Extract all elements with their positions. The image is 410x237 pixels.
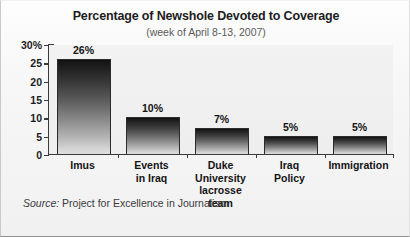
bar-value-label: 5% bbox=[264, 121, 318, 133]
chart-subtitle: (week of April 8-13, 2007) bbox=[1, 25, 410, 39]
x-axis-category-line: Imus bbox=[48, 159, 117, 172]
x-axis-category-line: in Iraq bbox=[117, 172, 186, 185]
y-axis-label: 0 bbox=[36, 149, 42, 161]
bar-group: 26% bbox=[57, 45, 111, 154]
y-axis-tick bbox=[44, 137, 49, 138]
x-axis-category-line: Iraq bbox=[255, 159, 324, 172]
source-note: Source: Project for Excellence in Journa… bbox=[23, 197, 228, 209]
x-axis-category-line: Policy bbox=[255, 172, 324, 185]
y-axis-label: 20 bbox=[30, 76, 42, 88]
chart-figure: Percentage of Newshole Devoted to Covera… bbox=[0, 0, 410, 237]
x-axis-tick bbox=[118, 154, 119, 158]
source-label: Source: bbox=[23, 197, 59, 209]
bar bbox=[333, 136, 387, 154]
bar bbox=[57, 59, 111, 154]
y-axis-label: 30% bbox=[21, 39, 42, 51]
y-axis-tick bbox=[44, 155, 49, 156]
x-axis-tick bbox=[325, 154, 326, 158]
y-axis-label: 5 bbox=[36, 131, 42, 143]
bar-value-label: 7% bbox=[195, 113, 249, 125]
bar-value-label: 26% bbox=[57, 44, 111, 56]
plot-area: 30%2520151050 26%10%7%5%5% bbox=[48, 45, 393, 155]
x-axis-tick bbox=[187, 154, 188, 158]
x-axis-category-label: IraqPolicy bbox=[255, 159, 324, 184]
y-axis-label: 25 bbox=[30, 57, 42, 69]
x-axis-category-line: Events bbox=[117, 159, 186, 172]
y-axis-label: 15 bbox=[30, 94, 42, 106]
x-axis-category-label: Immigration bbox=[324, 159, 393, 172]
bar-value-label: 10% bbox=[126, 102, 180, 114]
bar-group: 5% bbox=[333, 45, 387, 154]
bar-group: 7% bbox=[195, 45, 249, 154]
source-text: Project for Excellence in Journalism bbox=[62, 197, 228, 209]
y-axis-tick bbox=[44, 100, 49, 101]
bar-group: 5% bbox=[264, 45, 318, 154]
bar bbox=[195, 128, 249, 154]
x-axis-category-line: Duke University bbox=[186, 159, 255, 184]
y-axis-tick bbox=[44, 63, 49, 64]
bar bbox=[126, 117, 180, 154]
y-axis-tick bbox=[44, 118, 49, 119]
x-axis-tick-end bbox=[393, 154, 394, 158]
y-axis-label: 10 bbox=[30, 112, 42, 124]
page-title: Percentage of Newshole Devoted to Covera… bbox=[1, 9, 410, 24]
y-axis-tick bbox=[44, 45, 49, 46]
x-axis-category-label: Eventsin Iraq bbox=[117, 159, 186, 184]
x-axis-category-label: Imus bbox=[48, 159, 117, 172]
bar-value-label: 5% bbox=[333, 121, 387, 133]
y-axis-tick bbox=[44, 82, 49, 83]
bar-group: 10% bbox=[126, 45, 180, 154]
x-axis-category-line: Immigration bbox=[324, 159, 393, 172]
title-block: Percentage of Newshole Devoted to Covera… bbox=[1, 9, 410, 39]
x-axis-tick bbox=[256, 154, 257, 158]
bar bbox=[264, 136, 318, 154]
